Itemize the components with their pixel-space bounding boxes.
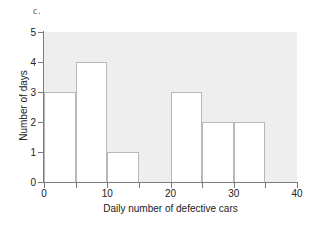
y-axis-tick xyxy=(38,152,43,153)
x-axis-tick xyxy=(265,183,266,188)
histogram-bar xyxy=(234,122,266,182)
y-axis-tick xyxy=(38,62,43,63)
y-axis-tick xyxy=(38,122,43,123)
x-axis-tick-label: 30 xyxy=(222,188,246,199)
x-axis-tick-label: 20 xyxy=(159,188,183,199)
histogram-bar xyxy=(44,92,76,182)
y-axis-title: Number of days xyxy=(18,31,29,181)
histogram-bar xyxy=(107,152,139,182)
bar-series xyxy=(44,32,297,182)
x-axis-title: Daily number of defective cars xyxy=(44,203,297,214)
histogram-figure: c. 012345 010203040 Daily number of defe… xyxy=(0,0,314,228)
x-axis-tick xyxy=(139,183,140,188)
x-axis-tick-label: 0 xyxy=(32,188,56,199)
x-axis-tick-label: 10 xyxy=(95,188,119,199)
y-axis-tick xyxy=(38,32,43,33)
histogram-bar xyxy=(202,122,234,182)
x-axis-tick xyxy=(202,183,203,188)
y-axis-tick xyxy=(38,182,43,183)
histogram-bar xyxy=(171,92,203,182)
part-label: c. xyxy=(33,5,41,16)
x-axis-tick-label: 40 xyxy=(285,188,309,199)
x-axis-tick xyxy=(76,183,77,188)
y-axis-tick xyxy=(38,92,43,93)
plot-area xyxy=(44,32,297,182)
histogram-bar xyxy=(76,62,108,182)
y-axis-line xyxy=(43,31,44,183)
